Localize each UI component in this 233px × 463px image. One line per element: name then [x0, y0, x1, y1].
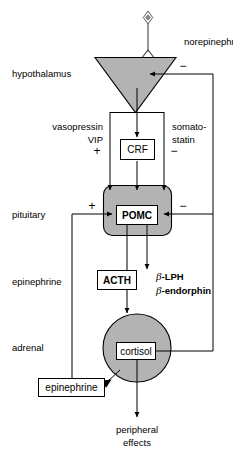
- beta-endorphin-label: β-endorphin: [156, 284, 211, 297]
- plus-sign-pituitary: +: [86, 200, 98, 212]
- beta-lph-label: β-LPH: [156, 270, 184, 283]
- norepinephrine-terminal-icon: [142, 11, 155, 58]
- pituitary-label: pituitary: [12, 209, 45, 221]
- epinephrine-node[interactable]: epinephrine: [38, 378, 105, 397]
- hypothalamus-shape: [95, 58, 176, 113]
- acth-node[interactable]: ACTH: [97, 270, 137, 290]
- hpa-axis-diagram: norepinephrine hypothalamus vasopressin …: [0, 0, 233, 463]
- adrenal-label: adrenal: [12, 342, 44, 354]
- vip-label: VIP: [20, 134, 103, 146]
- cortisol-node[interactable]: cortisol: [116, 342, 156, 360]
- beta-endorphin-text: -endorphin: [161, 285, 211, 296]
- minus-sign-somatostatin: −: [168, 145, 180, 157]
- plus-sign-vasopressin: +: [91, 145, 103, 157]
- crf-node[interactable]: CRF: [120, 139, 155, 160]
- minus-sign-hypothalamus-feedback: −: [177, 60, 189, 72]
- pomc-node[interactable]: POMC: [116, 205, 158, 225]
- hypothalamus-label: hypothalamus: [12, 68, 71, 80]
- vasopressin-label: vasopressin: [20, 121, 103, 133]
- beta-lph-text: -LPH: [161, 271, 183, 282]
- minus-sign-pituitary-feedback: −: [177, 200, 189, 212]
- peripheral-effects-label-line1: peripheral: [97, 424, 177, 436]
- epinephrine-row-label: epinephrine: [12, 276, 62, 288]
- norepinephrine-label: norepinephrine: [184, 36, 233, 48]
- somatostatin-label-line1: somato-: [172, 121, 206, 133]
- peripheral-effects-label-line2: effects: [97, 437, 177, 449]
